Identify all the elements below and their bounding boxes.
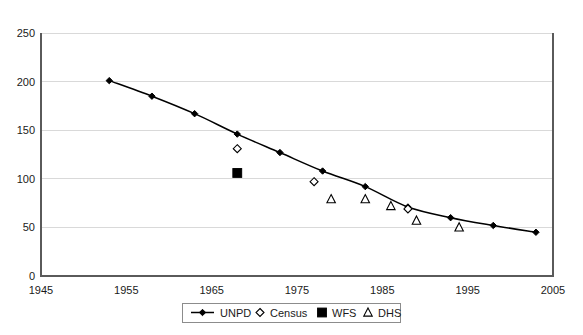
legend-label-census: Census: [270, 307, 308, 319]
x-tick-label: 1945: [29, 284, 53, 296]
legend-label-wfs: WFS: [332, 307, 356, 319]
y-tick-label: 100: [17, 173, 35, 185]
y-tick-label: 250: [17, 27, 35, 39]
legend-marker-wfs: [318, 308, 327, 317]
data-point-wfs: [233, 169, 242, 178]
y-tick-label: 200: [17, 76, 35, 88]
y-tick-label: 50: [23, 221, 35, 233]
legend-item-wfs: WFS: [318, 307, 357, 319]
x-tick-label: 1965: [199, 284, 223, 296]
chart-container: 050100150200250 194519551965197519851995…: [0, 0, 583, 335]
legend-label-unpd: UNPD: [220, 307, 251, 319]
y-tick-label: 150: [17, 124, 35, 136]
x-tick-label: 2005: [541, 284, 565, 296]
x-tick-label: 1995: [455, 284, 479, 296]
y-tick-label: 0: [29, 270, 35, 282]
line-chart: 050100150200250 194519551965197519851995…: [0, 0, 583, 335]
legend-label-dhs: DHS: [378, 307, 401, 319]
chart-legend: UNPDCensusWFSDHS: [182, 303, 401, 322]
x-tick-label: 1975: [285, 284, 309, 296]
x-tick-label: 1955: [114, 284, 138, 296]
x-tick-label: 1985: [370, 284, 394, 296]
